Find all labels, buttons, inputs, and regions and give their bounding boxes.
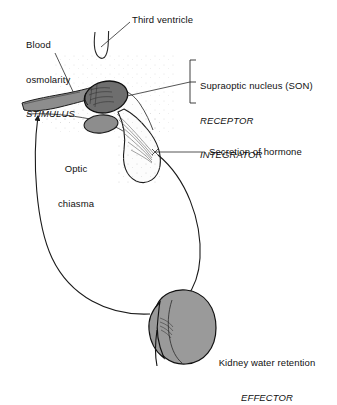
third-ventricle-leader — [101, 22, 130, 47]
third-ventricle-shape — [94, 31, 108, 58]
third-ventricle-label: Third ventricle — [132, 14, 193, 26]
son-label: Supraoptic nucleus (SON) RECEPTOR INTEGR… — [200, 57, 313, 184]
stimulus-line1: Blood — [26, 39, 75, 51]
secretion-label: Secretion of hormone — [209, 146, 302, 158]
kidney-label: Kidney water retention EFFECTOR — [204, 334, 330, 405]
optic-chiasma-label: Optic chiasma — [46, 140, 106, 232]
pituitary-gland — [117, 109, 162, 184]
stimulus-label: Blood osmolarity STIMULUS — [26, 16, 75, 143]
stimulus-emphasis: STIMULUS — [26, 108, 75, 120]
stimulus-line2: osmolarity — [26, 74, 75, 86]
optic-chiasma-line1: Optic — [46, 163, 106, 175]
hormone-transport-arrow — [158, 155, 200, 298]
optic-chiasma-line2: chiasma — [46, 198, 106, 210]
son-bracket — [190, 60, 196, 103]
kidney-line1: Kidney water retention — [204, 357, 330, 369]
son-title: Supraoptic nucleus (SON) — [200, 80, 313, 92]
kidney-emphasis: EFFECTOR — [204, 392, 330, 404]
son-emphasis-receptor: RECEPTOR — [200, 115, 313, 127]
